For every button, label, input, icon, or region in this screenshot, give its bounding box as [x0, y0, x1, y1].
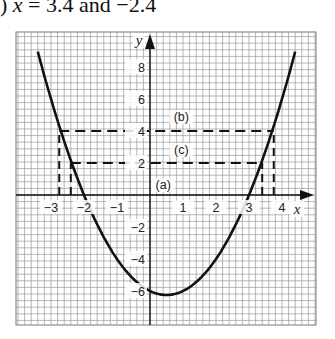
x-tick-label: 1	[180, 201, 187, 215]
x-tick-label: 2	[213, 201, 220, 215]
parabola-graph: −3−2−112348642−2−4−6xy(a)(b)(c)	[0, 0, 335, 339]
x-tick-label: −2	[77, 201, 91, 215]
x-tick-label: −1	[110, 201, 124, 215]
y-tick-label: 6	[138, 93, 145, 107]
y-tick-label: 8	[138, 61, 145, 75]
y-tick-label: 4	[138, 125, 145, 139]
annotation-c: (c)	[174, 143, 189, 157]
x-tick-label: 3	[246, 201, 253, 215]
y-tick-label: −4	[131, 253, 145, 267]
x-axis-label: x	[293, 201, 301, 217]
y-tick-label: 2	[138, 157, 145, 171]
annotation-a: (a)	[156, 178, 171, 192]
x-tick-label: 4	[279, 201, 286, 215]
y-tick-label: −2	[131, 221, 145, 235]
annotation-b: (b)	[174, 110, 189, 124]
x-tick-label: −3	[44, 201, 58, 215]
y-tick-label: −6	[131, 285, 145, 299]
y-axis-label: y	[134, 32, 143, 48]
